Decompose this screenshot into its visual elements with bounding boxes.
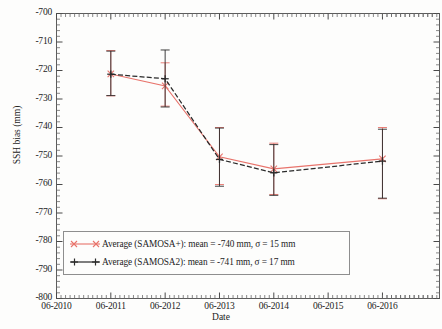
legend-swatch-samosa2 [68, 254, 102, 270]
y-tick-label: -710 [8, 36, 52, 46]
x-tick-label: 06-2010 [27, 301, 87, 311]
y-axis-label: SSH bias (mm) [12, 90, 22, 180]
x-tick-label: 06-2016 [352, 301, 412, 311]
plot-canvas [0, 0, 442, 329]
y-tick-label: -790 [8, 264, 52, 274]
x-tick-label: 06-2015 [298, 301, 358, 311]
y-tick-label: -780 [8, 235, 52, 245]
x-tick-label: 06-2013 [189, 301, 249, 311]
series-samosa- [106, 51, 387, 199]
legend-entry-samosa-plus: Average (SAMOSA+): mean = -740 mm, σ = 1… [68, 235, 345, 253]
y-tick-label: -770 [8, 207, 52, 217]
chart-legend: Average (SAMOSA+): mean = -740 mm, σ = 1… [63, 231, 350, 275]
x-tick-label: 06-2014 [244, 301, 304, 311]
chart-figure: -700-710-720-730-740-750-760-770-780-790… [0, 0, 442, 329]
x-tick-label: 06-2012 [135, 301, 195, 311]
legend-swatch-samosa-plus [68, 236, 102, 252]
series-samosa2 [106, 50, 387, 198]
x-tick-label: 06-2011 [81, 301, 141, 311]
y-tick-label: -700 [8, 7, 52, 17]
legend-label-samosa-plus: Average (SAMOSA+): mean = -740 mm, σ = 1… [102, 239, 295, 249]
x-axis-label: Date [0, 312, 442, 322]
y-tick-label: -720 [8, 64, 52, 74]
data-series-layer [106, 50, 387, 199]
legend-label-samosa2: Average (SAMOSA2): mean = -741 mm, σ = 1… [102, 257, 295, 267]
legend-entry-samosa2: Average (SAMOSA2): mean = -741 mm, σ = 1… [68, 253, 345, 271]
